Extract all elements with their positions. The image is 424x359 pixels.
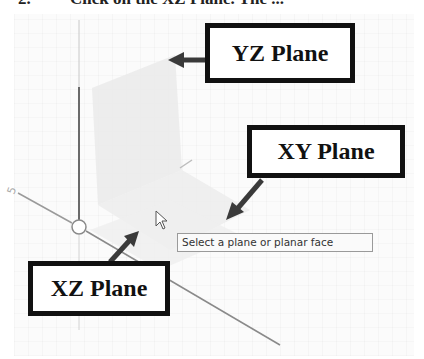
xz-plane-callout: XZ Plane: [28, 261, 170, 316]
axis-label-fragment: 5: [5, 185, 20, 196]
yz-plane-callout: YZ Plane: [205, 23, 355, 83]
origin-point[interactable]: [72, 220, 86, 234]
xy-plane-label: XY Plane: [277, 138, 374, 165]
selection-tooltip: Select a plane or planar face: [177, 233, 373, 252]
x-axis-line: [18, 193, 72, 223]
xy-plane-callout: XY Plane: [247, 125, 405, 178]
yz-plane-label: YZ Plane: [232, 40, 329, 67]
mouse-pointer-icon: [155, 210, 169, 230]
xz-plane-label: XZ Plane: [51, 275, 148, 302]
